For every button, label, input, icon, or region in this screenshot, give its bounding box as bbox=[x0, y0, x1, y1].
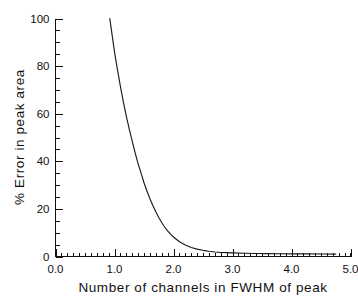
x-axis-tick-labels: 0.01.02.03.04.05.0 bbox=[48, 263, 358, 275]
y-axis-minor-ticks bbox=[56, 20, 60, 258]
y-tick-label: 80 bbox=[37, 60, 50, 72]
axes-group bbox=[56, 19, 351, 257]
x-tick-label: 3.0 bbox=[225, 263, 241, 275]
x-tick-label: 4.0 bbox=[284, 263, 300, 275]
line-chart: 0.01.02.03.04.05.0 020406080100 Number o… bbox=[0, 0, 358, 302]
y-axis-tick-labels: 020406080100 bbox=[30, 13, 49, 263]
x-tick-label: 0.0 bbox=[48, 263, 64, 275]
y-tick-label: 40 bbox=[37, 155, 50, 167]
x-tick-label: 2.0 bbox=[166, 263, 182, 275]
y-axis-title: % Error in peak area bbox=[12, 69, 27, 205]
y-tick-label: 0 bbox=[43, 251, 49, 263]
x-tick-label: 1.0 bbox=[107, 263, 123, 275]
y-tick-label: 20 bbox=[37, 203, 50, 215]
data-series-line bbox=[110, 19, 336, 255]
y-tick-label: 100 bbox=[30, 13, 49, 25]
y-tick-label: 60 bbox=[37, 108, 50, 120]
x-tick-label: 5.0 bbox=[343, 263, 358, 275]
chart-figure: 0.01.02.03.04.05.0 020406080100 Number o… bbox=[0, 0, 358, 302]
x-axis-title: Number of channels in FWHM of peak bbox=[78, 280, 327, 295]
